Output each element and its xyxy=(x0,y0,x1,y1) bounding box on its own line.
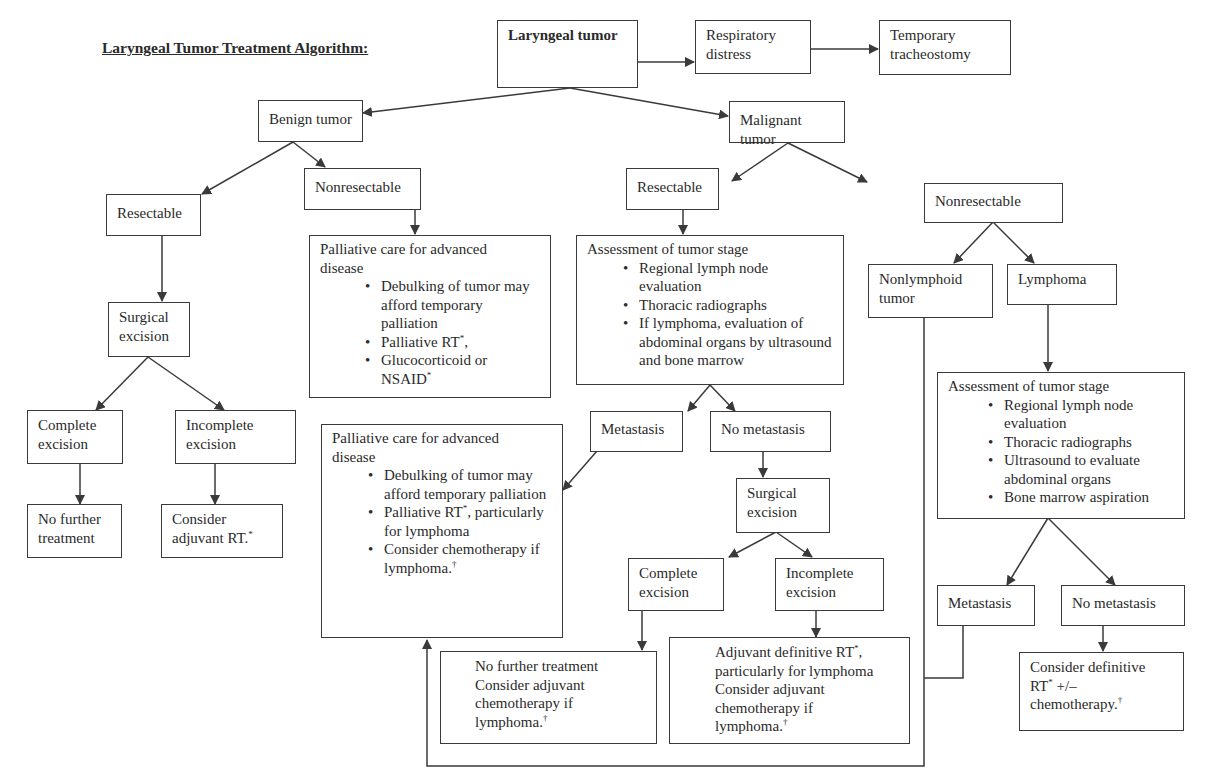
bullet-item: Thoracic radiographs xyxy=(1004,433,1174,452)
node-label: Nonresectable xyxy=(935,193,1021,209)
node-label: Benign tumor xyxy=(269,111,352,127)
footnote-mark: * xyxy=(248,529,253,539)
node-malignant-incomplete-excision: Incomplete excision xyxy=(775,558,884,611)
bullet-item: Thoracic radiographs xyxy=(639,296,833,315)
node-heading: Assessment of tumor stage xyxy=(948,377,1174,396)
outcome-text: Consider adjuvant chemotherapy if lympho… xyxy=(475,677,585,730)
flowchart-canvas: Laryngeal Tumor Treatment Algorithm: xyxy=(0,0,1206,775)
node-complete-outcome: No further treatment Consider adjuvant c… xyxy=(440,651,657,744)
bullet-item: Debulking of tumor may afford temporary … xyxy=(381,277,540,333)
bullet-list: Debulking of tumor may afford temporary … xyxy=(320,277,540,388)
bullet-item: Bone marrow aspiration xyxy=(1004,488,1174,507)
footnote-mark: † xyxy=(543,713,548,723)
bullet-text: Consider chemotherapy if lymphoma. xyxy=(384,541,540,576)
arrow-surgical-to-incomplete-m xyxy=(776,532,812,557)
arrow-lymph-assessment-to-metastasis xyxy=(1007,518,1048,585)
node-label: No further treatment xyxy=(38,511,101,546)
node-label: Temporary tracheostomy xyxy=(890,27,971,62)
bullet-list: Regional lymph node evaluation Thoracic … xyxy=(587,259,833,370)
arrow-surgical-to-incomplete xyxy=(148,357,224,410)
node-label: Resectable xyxy=(637,179,702,195)
outcome-text: Consider adjuvant chemotherapy if lympho… xyxy=(715,681,825,734)
bullet-item: Palliative RT*, xyxy=(381,333,540,352)
node-benign-incomplete-excision: Incomplete excision xyxy=(175,410,296,464)
bullet-item: Regional lymph node evaluation xyxy=(1004,396,1174,433)
node-benign-no-further-treatment: No further treatment xyxy=(27,504,122,558)
arrow-benign-to-resectable xyxy=(202,142,293,194)
arrow-surgical-to-complete-m xyxy=(729,532,776,557)
node-malignant-tumor: Malignant tumor xyxy=(729,101,845,143)
node-malignant-palliative-care: Palliative care for advanced disease Deb… xyxy=(321,424,563,638)
node-label: Nonlymphoid tumor xyxy=(879,271,962,306)
node-temporary-tracheostomy: Temporary tracheostomy xyxy=(879,20,1011,75)
node-label: Consider definitive RT* +/– chemotherapy… xyxy=(1030,658,1160,714)
node-malignant-nonresectable: Nonresectable xyxy=(924,183,1063,223)
arrow-nonresectable-to-nonlymphoid xyxy=(954,222,993,263)
node-benign-surgical-excision: Surgical excision xyxy=(108,302,190,357)
arrow-root-to-benign xyxy=(363,88,570,113)
node-label: Incomplete excision xyxy=(786,565,853,600)
footnote-mark: † xyxy=(452,559,457,569)
arrow-assessment-to-metastasis xyxy=(688,385,710,411)
bullet-item: Debulking of tumor may afford temporary … xyxy=(384,466,552,503)
bullet-text: Palliative RT xyxy=(381,334,460,350)
arrow-malignant-to-nonresectable xyxy=(788,143,867,182)
bullet-item: If lymphoma, evaluation of abdominal org… xyxy=(639,314,833,370)
outcome-line: No further treatment xyxy=(475,657,646,676)
node-malignant-complete-excision: Complete excision xyxy=(628,558,724,611)
node-incomplete-outcome: Adjuvant definitive RT*, particularly fo… xyxy=(669,637,910,744)
node-laryngeal-tumor: Laryngeal tumor xyxy=(497,20,638,88)
bullet-item: Consider chemotherapy if lymphoma.† xyxy=(384,540,552,577)
node-label: Metastasis xyxy=(601,421,664,437)
arrow-surgical-to-complete xyxy=(96,357,148,410)
node-benign-complete-excision: Complete excision xyxy=(27,410,123,464)
node-resectable-no-metastasis: No metastasis xyxy=(710,411,831,452)
node-benign-resectable: Resectable xyxy=(106,194,201,236)
node-resectable-metastasis: Metastasis xyxy=(590,411,683,452)
node-lymphoma-assessment: Assessment of tumor stage Regional lymph… xyxy=(937,372,1185,519)
node-label: Malignant tumor xyxy=(740,112,802,147)
bullet-item: Regional lymph node evaluation xyxy=(639,259,833,296)
arrow-benign-to-nonresectable xyxy=(293,142,325,167)
node-label: Complete excision xyxy=(639,565,697,600)
bullet-suffix: , xyxy=(464,334,468,350)
footnote-mark: † xyxy=(783,717,788,727)
bullet-list: Debulking of tumor may afford temporary … xyxy=(332,466,552,577)
diagram-title: Laryngeal Tumor Treatment Algorithm: xyxy=(102,39,368,57)
outcome-text: Adjuvant definitive RT xyxy=(715,644,854,660)
outcome-line: Consider adjuvant chemotherapy if lympho… xyxy=(715,680,855,736)
node-lymphoma-no-metastasis: No metastasis xyxy=(1061,585,1185,626)
line-metastasis-to-loop xyxy=(924,625,963,678)
node-label: Laryngeal tumor xyxy=(508,27,618,43)
node-lymphoma: Lymphoma xyxy=(1007,264,1117,305)
node-benign-consider-adjuvant-rt: Consider adjuvant RT.* xyxy=(161,504,283,558)
bullet-item: Palliative RT*, particularly for lymphom… xyxy=(384,503,552,540)
arrow-root-to-malignant xyxy=(570,88,728,116)
outcome-line: Adjuvant definitive RT*, particularly fo… xyxy=(715,643,890,680)
arrow-nonresectable-to-lymphoma xyxy=(993,222,1034,263)
node-heading: Assessment of tumor stage xyxy=(587,240,833,259)
node-resectable-assessment: Assessment of tumor stage Regional lymph… xyxy=(576,235,844,385)
node-respiratory-distress: Respiratory distress xyxy=(695,20,811,74)
bullet-text: Palliative RT xyxy=(384,504,463,520)
node-label: Nonresectable xyxy=(315,179,401,195)
node-label: Resectable xyxy=(117,205,182,221)
arrow-lymph-assessment-to-no-metastasis xyxy=(1048,518,1115,585)
node-label: Lymphoma xyxy=(1018,271,1086,287)
node-label: Consider adjuvant RT. xyxy=(172,511,248,546)
bullet-item: Glucocorticoid or NSAID* xyxy=(381,351,540,388)
arrow-metastasis-to-palliative xyxy=(563,451,597,490)
node-label: Complete excision xyxy=(38,417,96,452)
bullet-text: Glucocorticoid or NSAID xyxy=(381,352,487,387)
node-label: No metastasis xyxy=(1072,595,1156,611)
bullet-list: Regional lymph node evaluation Thoracic … xyxy=(948,396,1174,507)
node-malignant-surgical-excision: Surgical excision xyxy=(736,478,830,533)
node-consider-definitive-rt: Consider definitive RT* +/– chemotherapy… xyxy=(1019,652,1184,731)
node-label: Metastasis xyxy=(948,595,1011,611)
bullet-item: Ultrasound to evaluate abdominal organs xyxy=(1004,451,1174,488)
node-heading: Palliative care for advanced disease xyxy=(332,429,532,466)
arrow-assessment-to-no-metastasis xyxy=(710,385,735,411)
node-lymphoma-metastasis: Metastasis xyxy=(937,585,1035,626)
node-heading: Palliative care for advanced disease xyxy=(320,240,520,277)
footnote-mark: † xyxy=(1118,695,1123,705)
